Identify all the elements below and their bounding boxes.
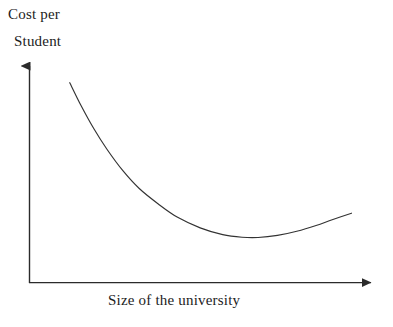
average-cost-curve: [70, 83, 352, 238]
cost-per-student-chart: Cost per Student Size of the university: [0, 0, 393, 327]
chart-plot-area: [0, 0, 393, 327]
